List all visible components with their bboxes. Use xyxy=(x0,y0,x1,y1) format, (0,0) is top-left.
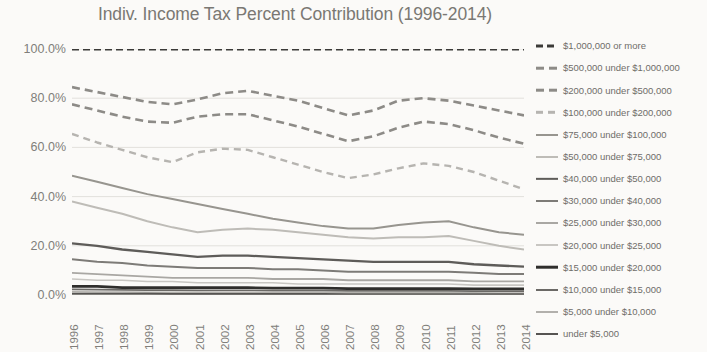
x-axis-tick-label: 2011 xyxy=(445,325,457,350)
legend-label: $1,000,000 or more xyxy=(563,41,646,51)
legend-item[interactable]: $15,000 under $20,000 xyxy=(536,260,707,274)
legend-label: $50,000 under $75,000 xyxy=(563,152,661,162)
legend-label: $20,000 under $25,000 xyxy=(563,241,661,251)
legend-swatch-icon xyxy=(536,218,558,228)
series-line xyxy=(72,202,524,250)
legend-label: $500,000 under $1,000,000 xyxy=(563,63,680,73)
legend-label: $10,000 under $15,000 xyxy=(563,285,661,295)
series-line xyxy=(72,104,524,143)
x-axis-tick-label: 1996 xyxy=(68,324,80,350)
x-axis-tick-label: 2010 xyxy=(420,324,432,350)
series-lines xyxy=(72,49,524,294)
legend-label: $200,000 under $500,000 xyxy=(563,86,672,96)
y-axis-labels: 0.0%20.0%40.0%60.0%80.0%100.0% xyxy=(0,40,66,306)
legend-label: $5,000 under $10,000 xyxy=(563,307,656,317)
legend-swatch-icon xyxy=(536,240,558,250)
series-line xyxy=(72,286,524,288)
legend-item[interactable]: $10,000 under $15,000 xyxy=(536,283,707,297)
series-line xyxy=(72,87,524,115)
chart-container: Indiv. Income Tax Percent Contribution (… xyxy=(0,0,707,352)
legend-swatch-icon xyxy=(536,174,558,184)
y-axis-tick-label: 0.0% xyxy=(0,288,66,302)
legend-item[interactable]: $5,000 under $10,000 xyxy=(536,305,707,319)
legend-item[interactable]: $50,000 under $75,000 xyxy=(536,150,707,164)
legend-swatch-icon xyxy=(536,285,558,295)
legend-swatch-icon xyxy=(536,63,558,73)
legend-swatch-icon xyxy=(536,85,558,95)
series-line xyxy=(72,243,524,266)
legend-item[interactable]: $200,000 under $500,000 xyxy=(536,83,707,97)
x-axis-tick-label: 2003 xyxy=(244,324,256,350)
x-axis-tick-label: 2002 xyxy=(219,324,231,350)
x-axis-tick-label: 2009 xyxy=(394,324,406,350)
legend-swatch-icon xyxy=(536,329,558,339)
legend-item[interactable]: $20,000 under $25,000 xyxy=(536,238,707,252)
legend-swatch-icon xyxy=(536,107,558,117)
chart-legend: $1,000,000 or more$500,000 under $1,000,… xyxy=(536,38,707,348)
legend-swatch-icon xyxy=(536,196,558,206)
legend-item[interactable]: under $5,000 xyxy=(536,327,707,341)
x-axis-labels: 1996199719981999200020012002200320042005… xyxy=(72,300,524,352)
legend-label: $40,000 under $50,000 xyxy=(563,174,661,184)
y-axis-tick-label: 40.0% xyxy=(0,190,66,204)
legend-swatch-icon xyxy=(536,307,558,317)
legend-swatch-icon xyxy=(536,262,558,272)
legend-label: $100,000 under $200,000 xyxy=(563,108,672,118)
legend-label: $25,000 under $30,000 xyxy=(563,218,661,228)
legend-item[interactable]: $1,000,000 or more xyxy=(536,39,707,53)
legend-label: $15,000 under $20,000 xyxy=(563,263,661,273)
x-axis-tick-label: 1999 xyxy=(143,324,155,350)
legend-item[interactable]: $30,000 under $40,000 xyxy=(536,194,707,208)
y-axis-tick-label: 20.0% xyxy=(0,239,66,253)
x-axis-tick-label: 1998 xyxy=(118,324,130,350)
x-axis-tick-label: 2005 xyxy=(294,324,306,350)
y-axis-tick-label: 60.0% xyxy=(0,140,66,154)
series-line xyxy=(72,176,524,235)
legend-item[interactable]: $100,000 under $200,000 xyxy=(536,105,707,119)
x-axis-tick-label: 2006 xyxy=(319,324,331,350)
legend-swatch-icon xyxy=(536,130,558,140)
x-axis-tick-label: 2001 xyxy=(194,324,206,350)
chart-title: Indiv. Income Tax Percent Contribution (… xyxy=(60,4,530,25)
x-axis-tick-label: 2000 xyxy=(168,324,180,350)
plot-area xyxy=(72,49,524,295)
legend-item[interactable]: $75,000 under $100,000 xyxy=(536,128,707,142)
x-axis-tick-label: 2008 xyxy=(369,324,381,350)
legend-item[interactable]: $500,000 under $1,000,000 xyxy=(536,61,707,75)
x-axis-tick-label: 2013 xyxy=(495,324,507,350)
legend-label: under $5,000 xyxy=(563,329,619,339)
legend-label: $30,000 under $40,000 xyxy=(563,196,661,206)
legend-label: $75,000 under $100,000 xyxy=(563,130,667,140)
x-axis-tick-label: 2007 xyxy=(344,324,356,350)
series-line xyxy=(72,273,524,282)
y-axis-tick-label: 100.0% xyxy=(0,42,66,56)
legend-item[interactable]: $25,000 under $30,000 xyxy=(536,216,707,230)
series-line xyxy=(72,292,524,293)
x-axis-tick-label: 2004 xyxy=(269,324,281,350)
legend-swatch-icon xyxy=(536,152,558,162)
legend-swatch-icon xyxy=(536,41,558,51)
series-line xyxy=(72,134,524,189)
x-axis-tick-label: 2014 xyxy=(520,324,532,350)
x-axis-tick-label: 1997 xyxy=(93,324,105,350)
legend-item[interactable]: $40,000 under $50,000 xyxy=(536,172,707,186)
y-axis-tick-label: 80.0% xyxy=(0,91,66,105)
x-axis-tick-label: 2012 xyxy=(470,324,482,350)
